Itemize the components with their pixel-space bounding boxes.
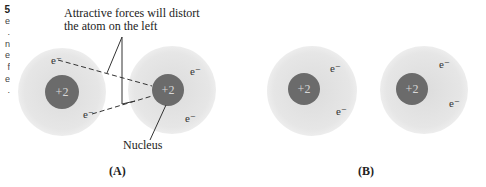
electron-label: e⁻	[336, 105, 347, 117]
electron-label: e⁻	[51, 54, 62, 66]
electron-label: e⁻	[439, 58, 450, 70]
attraction-annotation: Attractive forces will distort the atom …	[64, 7, 200, 33]
panel-a-right-atom: +2 e⁻ e⁻	[128, 46, 216, 134]
annotation-line-2: the atom on the left	[64, 20, 200, 33]
panel-label-a: (A)	[109, 164, 126, 179]
panel-b-right-atom: +2 e⁻ e⁻	[380, 46, 468, 134]
nucleus-charge: +2	[162, 83, 175, 97]
electron-label: e⁻	[330, 62, 341, 74]
nucleus-label: Nucleus	[123, 139, 162, 152]
nucleus-charge: +2	[406, 82, 419, 96]
panel-b-left-atom: +2 e⁻ e⁻	[267, 46, 357, 136]
panel-label-b: (B)	[358, 164, 374, 179]
electron-label: e⁻	[190, 65, 201, 77]
nucleus-charge: +2	[298, 82, 311, 96]
electron-label: e⁻	[185, 112, 196, 124]
nucleus-charge: +2	[56, 85, 69, 99]
electron-label: e⁻	[449, 97, 460, 109]
annotation-leader-line	[107, 37, 122, 73]
